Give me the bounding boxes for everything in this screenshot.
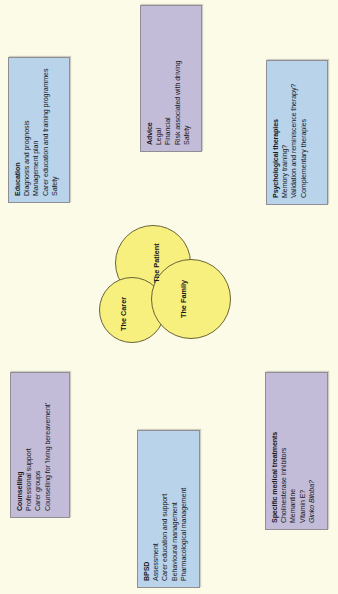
circle-the-family (151, 259, 231, 339)
box-advice-item-1: Financial (164, 12, 173, 145)
box-bpsd-item-0: Assessment (152, 437, 161, 581)
box-psychological-therapies: Psychological therapies Memory training?… (266, 60, 328, 205)
box-specific-medical-treatments-item-1: Memantine (289, 379, 298, 523)
box-bpsd-item-2: Behavioural management (171, 437, 180, 581)
box-education-item-0: Diagnosis and prognosis (23, 64, 32, 196)
box-education-item-3: Safety (51, 64, 60, 196)
box-psychological-therapies-item-0: Memory training? (281, 67, 290, 198)
box-counselling-item-0: Professional support (25, 379, 34, 511)
box-specific-medical-treatments-item-2: Vitamin E? (299, 379, 308, 523)
box-education-item-1: Management plan (32, 64, 41, 196)
circle-label-the-family: The Family (179, 280, 188, 318)
circle-label-the-patient: The Patient (152, 243, 161, 282)
box-bpsd: BPSD Assessment Carer education and supp… (137, 430, 200, 588)
box-education-item-2: Carer education and training programmes (42, 64, 51, 196)
box-specific-medical-treatments-item-0: Cholinesterase inhibitors (280, 379, 289, 523)
box-psychological-therapies-item-1: Validation and reminiscence therapy? (290, 67, 299, 198)
box-psychological-therapies-title: Psychological therapies (272, 67, 281, 198)
box-specific-medical-treatments-item-3: Ginko Biloba? (308, 379, 317, 523)
box-bpsd-item-3: Pharmacological management (180, 437, 189, 581)
box-specific-medical-treatments: Specific medical treatments Cholinestera… (265, 372, 328, 530)
box-psychological-therapies-item-2: Complementary therapies (300, 67, 309, 198)
diagram-canvas: Education Diagnosis and prognosis Manage… (0, 0, 338, 594)
box-counselling: Counselling Professional support Carer g… (10, 372, 70, 518)
box-education-title: Education (14, 64, 23, 196)
box-counselling-item-1: Carer groups (34, 379, 43, 511)
box-specific-medical-treatments-title: Specific medical treatments (271, 379, 280, 523)
circle-label-the-carer: The Carer (119, 297, 128, 331)
box-advice: Advice Legal Financial Risk associated w… (140, 5, 202, 152)
box-bpsd-item-1: Carer education and support (161, 437, 170, 581)
box-counselling-item-2: Counselling for 'living bereavement' (44, 379, 53, 511)
box-advice-item-2: Risk associated with driving (174, 12, 183, 145)
box-advice-title: Advice (146, 12, 155, 145)
box-education: Education Diagnosis and prognosis Manage… (8, 57, 70, 203)
box-advice-item-3: Safety (183, 12, 192, 145)
venn-diagram: The Patient The Family The Carer (95, 215, 235, 355)
box-bpsd-title: BPSD (143, 437, 152, 581)
box-counselling-title: Counselling (16, 379, 25, 511)
box-advice-item-0: Legal (155, 12, 164, 145)
